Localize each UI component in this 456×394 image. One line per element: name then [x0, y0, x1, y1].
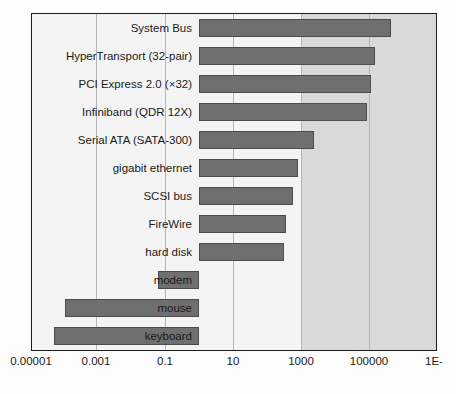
table-row: SCSI bus: [32, 187, 436, 205]
bar-label: SCSI bus: [143, 188, 196, 204]
bar-hypertransport: [199, 47, 375, 65]
bar-system-bus: [199, 19, 391, 37]
bar-label: System Bus: [131, 20, 196, 36]
table-row: mouse: [32, 299, 436, 317]
x-tick-label: 1000: [288, 355, 314, 367]
bar-label: Infiniband (QDR 12X): [82, 104, 196, 120]
bar-hard-disk: [199, 243, 284, 261]
table-row: hard disk: [32, 243, 436, 261]
table-row: gigabit ethernet: [32, 159, 436, 177]
table-row: HyperTransport (32-pair): [32, 47, 436, 65]
x-tick-label: 10: [227, 355, 240, 367]
bar-label: FireWire: [149, 216, 196, 232]
bar-label: keyboard: [145, 328, 196, 344]
bar-infiniband: [199, 103, 367, 121]
bar-chart: System Bus HyperTransport (32-pair) PCI …: [31, 13, 437, 351]
bar-label: modem: [154, 272, 196, 288]
bar-firewire: [199, 215, 286, 233]
bar-label: hard disk: [145, 244, 196, 260]
x-tick-label: 100000: [350, 355, 388, 367]
bar-label: gigabit ethernet: [113, 160, 196, 176]
x-axis: 0.00001 0.001 0.1 10 1000 100000 1E-: [0, 355, 456, 375]
x-tick-label: 1E-: [425, 355, 443, 367]
bar-label: mouse: [157, 300, 196, 316]
x-tick-label: 0.001: [82, 355, 111, 367]
table-row: PCI Express 2.0 (×32): [32, 75, 436, 93]
x-tick-label: 0.1: [157, 355, 173, 367]
table-row: System Bus: [32, 19, 436, 37]
bar-gigabit-ethernet: [199, 159, 298, 177]
x-tick-label: 0.00001: [10, 355, 52, 367]
table-row: FireWire: [32, 215, 436, 233]
bar-pci-express: [199, 75, 371, 93]
bar-scsi-bus: [199, 187, 293, 205]
table-row: keyboard: [32, 327, 436, 345]
bar-rows: System Bus HyperTransport (32-pair) PCI …: [32, 14, 436, 350]
table-row: modem: [32, 271, 436, 289]
table-row: Serial ATA (SATA-300): [32, 131, 436, 149]
bar-label: Serial ATA (SATA-300): [78, 132, 196, 148]
table-row: Infiniband (QDR 12X): [32, 103, 436, 121]
bar-label: HyperTransport (32-pair): [66, 48, 196, 64]
bar-serial-ata: [199, 131, 314, 149]
bar-label: PCI Express 2.0 (×32): [79, 76, 196, 92]
